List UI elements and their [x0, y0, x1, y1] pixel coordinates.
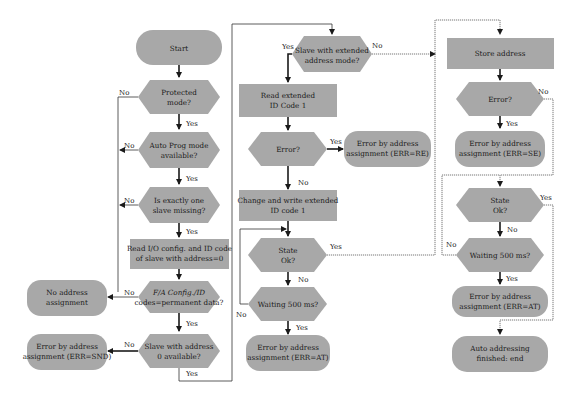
svg-text:Auto addressing: Auto addressing: [469, 344, 530, 353]
node-extended-address-mode: Slave with extended address mode?: [292, 36, 372, 72]
node-state-ok-1: State Ok?: [248, 238, 327, 272]
node-one-slave-missing: Is exactly one slave missing?: [138, 187, 220, 223]
node-start: Start: [136, 30, 222, 65]
svg-text:Auto Prog mode: Auto Prog mode: [149, 141, 209, 150]
node-error-snd: Error by address assignment (ERR=SND): [23, 334, 112, 370]
node-store-address: Store address: [447, 38, 554, 69]
edge-label: Yes: [539, 194, 552, 202]
svg-text:ID Code 1: ID Code 1: [270, 101, 306, 110]
svg-text:F/A Config./ID: F/A Config./ID: [152, 288, 205, 297]
svg-text:assignment (ERR=SE): assignment (ERR=SE): [459, 149, 541, 158]
node-error-re: Error by address assignment (ERR=RE): [344, 131, 431, 167]
svg-text:of slave with address=0: of slave with address=0: [136, 254, 224, 263]
edge-label: Yes: [185, 370, 198, 378]
svg-text:Error by address: Error by address: [357, 139, 419, 148]
svg-text:Slave with extended: Slave with extended: [295, 46, 369, 55]
edge-label: Yes: [505, 275, 518, 283]
svg-text:assignment (ERR=SND): assignment (ERR=SND): [23, 352, 112, 361]
svg-text:address mode?: address mode?: [305, 56, 360, 65]
edge-label: Yes: [185, 320, 198, 328]
node-waiting-500ms-2: Waiting 500 ms?: [456, 238, 544, 272]
svg-text:available?: available?: [161, 151, 198, 160]
edge-label: No: [538, 88, 548, 96]
edge-label: Yes: [295, 324, 308, 332]
edge-label: No: [298, 179, 308, 187]
svg-text:assignment (ERR=AT): assignment (ERR=AT): [459, 302, 541, 311]
edge-label: Yes: [185, 175, 198, 183]
flowchart-canvas: Start Protected mode? Yes No Auto Prog m…: [0, 0, 578, 397]
edge-label: No: [124, 197, 134, 205]
svg-text:Error by address: Error by address: [469, 292, 531, 301]
svg-text:State: State: [278, 246, 297, 255]
svg-text:Waiting 500 ms?: Waiting 500 ms?: [258, 300, 319, 309]
node-waiting-500ms-1: Waiting 500 ms?: [248, 287, 327, 321]
edge-label: No: [446, 241, 456, 249]
svg-text:Protected: Protected: [161, 88, 197, 97]
node-auto-prog-mode: Auto Prog mode available?: [138, 132, 220, 168]
node-error-at-2: Error by address assignment (ERR=AT): [452, 286, 548, 317]
edge-label: Yes: [329, 243, 342, 251]
edge-label: Yes: [505, 120, 518, 128]
node-protected-mode: Protected mode?: [138, 80, 220, 114]
svg-text:mode?: mode?: [167, 98, 191, 107]
node-read-extended-id: Read extended ID Code 1: [239, 84, 337, 117]
node-error-check-1: Error?: [248, 132, 327, 166]
svg-text:Read extended: Read extended: [261, 91, 316, 100]
svg-text:Store address: Store address: [475, 49, 526, 58]
svg-text:Ok?: Ok?: [493, 206, 507, 215]
edge-label: Yes: [185, 228, 198, 236]
node-no-address-assignment: No address assignment: [27, 280, 107, 316]
node-read-io-config: Read I/O config. and ID code of slave wi…: [127, 239, 232, 269]
edge-label: No: [372, 42, 382, 50]
edge-label: No: [124, 341, 134, 349]
edge-label: Yes: [329, 138, 342, 146]
svg-text:No address: No address: [46, 288, 88, 297]
svg-text:Slave with address: Slave with address: [145, 342, 214, 351]
svg-text:Change and write extended: Change and write extended: [238, 196, 339, 205]
edge-label: Yes: [185, 120, 198, 128]
node-error-se: Error by address assignment (ERR=SE): [455, 131, 545, 167]
svg-text:Ok?: Ok?: [281, 256, 295, 265]
edge-label: No: [298, 276, 308, 284]
svg-text:assignment: assignment: [46, 298, 88, 307]
node-error-at-1: Error by address assignment (ERR=AT): [246, 335, 330, 371]
svg-text:codes=permanent data?: codes=permanent data?: [135, 298, 224, 307]
svg-text:Start: Start: [170, 44, 189, 53]
svg-text:Error by address: Error by address: [469, 139, 531, 148]
edge-label: No: [124, 142, 134, 150]
svg-text:Is exactly one: Is exactly one: [154, 196, 204, 205]
node-change-write-extended: Change and write extended ID code 1: [238, 190, 339, 221]
node-permanent-data: F/A Config./ID codes=permanent data?: [135, 281, 224, 313]
svg-text:Error by address: Error by address: [36, 342, 98, 351]
svg-text:finished: end: finished: end: [476, 354, 523, 363]
edge-label: Yes: [281, 43, 294, 51]
node-end: Auto addressing finished: end: [452, 336, 548, 372]
svg-text:Waiting 500 ms?: Waiting 500 ms?: [470, 251, 531, 260]
node-slave-address-zero: Slave with address 0 available?: [138, 334, 220, 368]
svg-text:ID code 1: ID code 1: [271, 206, 306, 215]
svg-text:0 available?: 0 available?: [157, 352, 201, 361]
svg-text:assignment (ERR=RE): assignment (ERR=RE): [346, 149, 429, 158]
edge-label: No: [124, 289, 134, 297]
svg-text:Error by address: Error by address: [257, 343, 319, 352]
edge-extended-yes: [288, 54, 292, 82]
node-state-ok-2: State Ok?: [456, 188, 544, 222]
svg-text:Error?: Error?: [276, 145, 300, 154]
edge-label: No: [236, 311, 246, 319]
svg-text:slave missing?: slave missing?: [153, 206, 206, 215]
svg-text:Error?: Error?: [488, 95, 512, 104]
edge-label: No: [507, 226, 517, 234]
svg-text:assignment (ERR=AT): assignment (ERR=AT): [247, 353, 329, 362]
edge-label: No: [119, 89, 129, 97]
node-error-check-2: Error?: [456, 82, 544, 116]
svg-text:Read I/O config. and ID code: Read I/O config. and ID code: [127, 244, 232, 253]
svg-text:State: State: [490, 196, 509, 205]
